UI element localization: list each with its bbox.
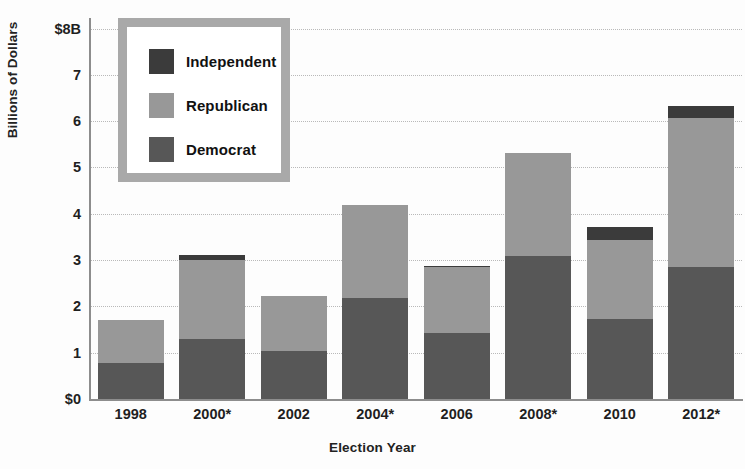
- chart-legend: IndependentRepublicanDemocrat: [118, 18, 290, 182]
- bar-group[interactable]: [505, 29, 571, 400]
- bar-segment-republican[interactable]: [342, 205, 408, 298]
- y-tick-label: $8B: [6, 21, 90, 37]
- bar-segment-republican[interactable]: [261, 296, 327, 351]
- bar-segment-republican[interactable]: [505, 153, 571, 256]
- bar-segment-democrat[interactable]: [668, 267, 734, 399]
- bar-group[interactable]: [424, 29, 490, 400]
- y-axis-tick-labels: $01234567$8B: [0, 0, 90, 469]
- bar-segment-independent[interactable]: [587, 227, 653, 240]
- x-axis-line: [89, 399, 743, 401]
- bar-segment-democrat[interactable]: [587, 319, 653, 399]
- stacked-bar-chart: Billions of Dollars $01234567$8B 1998200…: [0, 0, 745, 469]
- bar-segment-independent[interactable]: [179, 255, 245, 260]
- bar-segment-democrat[interactable]: [424, 333, 490, 399]
- legend-item-label: Independent: [186, 53, 276, 70]
- bar-segment-republican[interactable]: [179, 260, 245, 339]
- legend-swatch-icon: [149, 93, 174, 118]
- bar-segment-independent[interactable]: [424, 266, 490, 268]
- x-tick-label: 2012*: [661, 406, 743, 422]
- bar-segment-republican[interactable]: [587, 240, 653, 320]
- y-tick-label: 2: [6, 298, 90, 314]
- legend-inner-panel: IndependentRepublicanDemocrat: [127, 27, 281, 173]
- legend-item-label: Democrat: [186, 141, 256, 158]
- y-tick-label: 3: [6, 252, 90, 268]
- x-tick-label: 1998: [90, 406, 172, 422]
- y-tick-label: $0: [6, 391, 90, 407]
- y-tick-label: 6: [6, 113, 90, 129]
- x-tick-label: 2002: [253, 406, 335, 422]
- x-tick-label: 2000*: [172, 406, 254, 422]
- bar-segment-independent[interactable]: [668, 106, 734, 118]
- bar-group[interactable]: [668, 29, 734, 400]
- bar-segment-democrat[interactable]: [98, 363, 164, 399]
- legend-swatch-icon: [149, 137, 174, 162]
- legend-item[interactable]: Republican: [149, 87, 281, 124]
- x-tick-label: 2006: [416, 406, 498, 422]
- legend-swatch-icon: [149, 49, 174, 74]
- x-tick-label: 2008*: [498, 406, 580, 422]
- bar-segment-democrat[interactable]: [261, 351, 327, 399]
- legend-item[interactable]: Democrat: [149, 131, 281, 168]
- bar-segment-republican[interactable]: [98, 320, 164, 363]
- x-tick-label: 2004*: [335, 406, 417, 422]
- bar-segment-democrat[interactable]: [179, 339, 245, 399]
- y-tick-label: 4: [6, 206, 90, 222]
- x-axis-title: Election Year: [0, 440, 745, 455]
- bar-segment-democrat[interactable]: [505, 256, 571, 399]
- y-axis-line: [89, 18, 91, 401]
- bar-group[interactable]: [587, 29, 653, 400]
- y-tick-label: 7: [6, 67, 90, 83]
- legend-item-label: Republican: [186, 97, 268, 114]
- bar-segment-democrat[interactable]: [342, 298, 408, 399]
- bar-group[interactable]: [342, 29, 408, 400]
- y-tick-label: 1: [6, 345, 90, 361]
- x-tick-label: 2010: [579, 406, 661, 422]
- bar-segment-republican[interactable]: [424, 267, 490, 333]
- legend-item[interactable]: Independent: [149, 43, 281, 80]
- bar-segment-republican[interactable]: [668, 118, 734, 267]
- y-tick-label: 5: [6, 159, 90, 175]
